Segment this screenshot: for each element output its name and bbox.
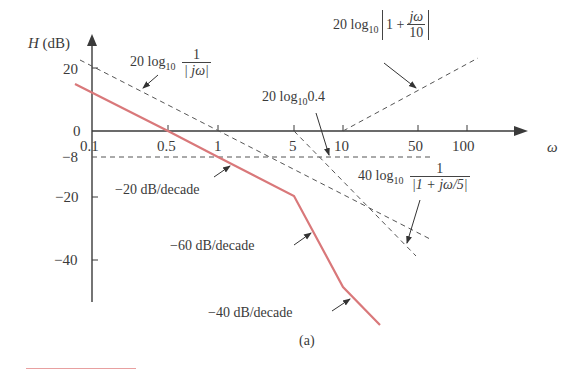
slope-label-20: −20 dB/decade [115, 183, 199, 197]
annotation-pole: 40 log10 1|1 + jω/5| [358, 162, 470, 192]
x-tick-50: 50 [408, 139, 423, 154]
ann-sub: 10 [297, 96, 307, 107]
arrow-gain [316, 113, 329, 155]
y-ticks [92, 68, 98, 260]
y-axis-label-unit: (dB) [39, 35, 70, 51]
ann-prefix: 40 log [358, 168, 393, 183]
ann-sub: 10 [368, 24, 378, 35]
y-axis-arrow-icon [87, 34, 97, 46]
ann-value: 0.4 [307, 89, 325, 104]
ann-sub: 10 [393, 175, 403, 186]
abs-bars: 1 + jω10 [382, 10, 429, 40]
x-tick-10: 10 [334, 139, 349, 154]
ann-body: 1 + [386, 18, 404, 32]
pole-asymptote [294, 131, 416, 256]
y-tick-minus-40: −40 [54, 253, 77, 268]
y-tick-0: 0 [73, 124, 81, 139]
y-tick-20: 20 [63, 62, 78, 77]
arrow-pole [407, 200, 420, 243]
arrow-slope-40 [332, 299, 350, 311]
zero-asymptote [343, 58, 478, 131]
x-tick-5: 5 [289, 139, 297, 154]
slope-label-40: −40 dB/decade [208, 306, 292, 320]
annotation-zero: 20 log10 1 + jω10 [333, 10, 429, 40]
x-tick-100: 100 [452, 139, 475, 154]
integrator-asymptote [80, 60, 432, 240]
x-tick-0.5: 0.5 [157, 139, 176, 154]
fraction: 1| jω| [182, 48, 211, 78]
x-tick-1: 1 [214, 139, 222, 154]
denominator: | jω| [182, 62, 211, 78]
x-tick-0.1: 0.1 [80, 139, 99, 154]
x-ticks [168, 125, 467, 131]
footnote-rule [26, 368, 136, 369]
denominator: |1 + jω/5| [410, 176, 470, 192]
magnitude-curve [75, 84, 380, 325]
arrow-slope-60 [294, 233, 311, 245]
figure-caption: (a) [299, 334, 315, 348]
fraction: jω10 [407, 10, 425, 40]
slope-label-60: −60 dB/decade [170, 239, 254, 253]
ann-sub: 10 [165, 61, 175, 72]
y-tick-minus-20: −20 [55, 190, 78, 205]
ann-prefix: 20 log [130, 54, 165, 69]
y-tick-minus-8: −8 [62, 150, 78, 165]
annotation-integrator: 20 log10 1| jω| [130, 48, 211, 78]
annotation-gain: 20 log100.4 [262, 90, 325, 107]
arrow-slope-20 [214, 166, 230, 177]
numerator: jω [407, 10, 425, 24]
ann-prefix: 20 log [262, 89, 297, 104]
y-axis-label-var: H [28, 35, 39, 51]
denominator: 10 [407, 24, 425, 40]
x-axis-arrow-icon [514, 126, 528, 136]
arrow-zero [384, 63, 416, 88]
fraction: 1|1 + jω/5| [410, 162, 470, 192]
ann-prefix: 20 log [333, 17, 368, 32]
y-axis-label: H (dB) [28, 36, 70, 51]
numerator: 1 [191, 48, 202, 62]
numerator: 1 [434, 162, 445, 176]
x-axis-label: ω [547, 140, 558, 155]
